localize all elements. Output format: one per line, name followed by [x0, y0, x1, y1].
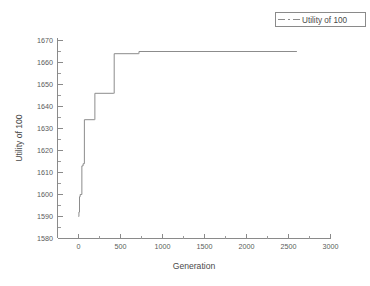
y-tick-label-1650: 1650 [37, 80, 53, 89]
x-axis-title: Generation [173, 261, 216, 271]
y-tick-label-1630: 1630 [37, 124, 53, 133]
series-line-utility-of-100 [79, 52, 297, 217]
chart-legend[interactable]: Utility of 100 [276, 13, 366, 27]
y-tick-label-1620: 1620 [37, 146, 53, 155]
y-axis-title: Utility of 100 [14, 114, 24, 162]
y-tick-label-1640: 1640 [37, 102, 53, 111]
y-tick-label-1660: 1660 [37, 58, 53, 67]
x-tick-label-1500: 1500 [197, 242, 213, 251]
y-tick-label-1580: 1580 [37, 234, 53, 243]
y-tick-label-1670: 1670 [37, 36, 53, 45]
x-tick-label-0: 0 [77, 242, 81, 251]
series-utility-of-100[interactable] [79, 52, 297, 217]
chart-root: Utility of 100 1580 1590 1600 1610 1620 … [0, 0, 370, 286]
legend-label-utility-of-100: Utility of 100 [302, 16, 347, 25]
y-tick-label-1600: 1600 [37, 190, 53, 199]
x-tick-label-2500: 2500 [281, 242, 297, 251]
y-tick-label-1610: 1610 [37, 168, 53, 177]
x-tick-label-1000: 1000 [155, 242, 171, 251]
y-tick-label-1590: 1590 [37, 212, 53, 221]
x-tick-label-500: 500 [115, 242, 127, 251]
x-axis-ticks: 0 500 1000 1500 2000 2500 3000 [77, 234, 339, 252]
x-tick-label-3000: 3000 [323, 242, 339, 251]
x-tick-label-2000: 2000 [239, 242, 255, 251]
chart-canvas: Utility of 100 1580 1590 1600 1610 1620 … [0, 0, 370, 286]
